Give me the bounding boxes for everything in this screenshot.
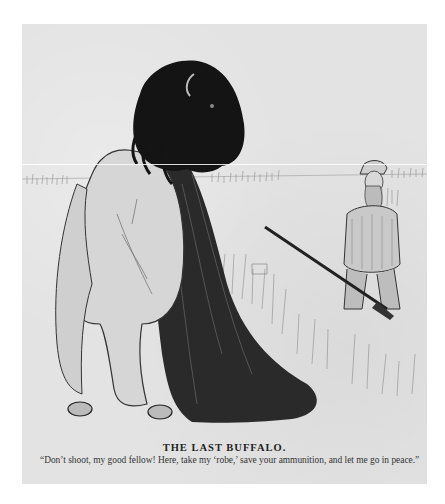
- illustration-title: THE LAST BUFFALO.: [22, 442, 427, 453]
- scan-scratch-line: [22, 164, 427, 165]
- buffalo-hoof-left: [68, 402, 92, 416]
- buffalo-eye: [210, 104, 214, 108]
- buffalo-illustration: [22, 24, 427, 439]
- buffalo-hoof-right: [148, 405, 172, 419]
- illustration-caption: “Don’t shoot, my good fellow! Here, take…: [26, 455, 422, 466]
